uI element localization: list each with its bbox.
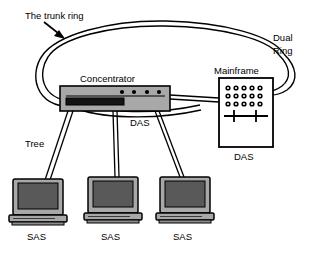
mainframe-device[interactable] [219,78,273,147]
das-mainframe-label: DAS [234,151,254,162]
das-concentrator-label: DAS [130,117,150,128]
concentrator-led-1 [120,90,124,94]
workstation-1-label: SAS [27,231,46,242]
workstation-1-screen [18,183,58,209]
concentrator-slot [66,98,124,105]
mainframe-label: Mainframe [214,65,259,76]
workstation-2[interactable] [84,177,142,223]
concentrator-led-4 [157,90,161,94]
tree-link-3-edge-b [159,111,184,177]
tree-link-1-edge-b [50,111,73,180]
tree-link-2-edge-b [117,111,119,177]
trunk-ring-label: The trunk ring [25,10,84,21]
tree-link-2-edge-a [113,111,115,177]
workstation-3-base [159,220,211,223]
concentrator-led-2 [132,90,136,94]
dual-ring-label-line1: Dual [273,32,293,43]
workstation-1-base [12,222,64,225]
dual-ring-label-line2: Ring [273,45,293,56]
concentrator-label: Concentrator [80,73,135,84]
das-link-edge-b [170,99,219,102]
tree-link-1-edge-a [45,111,68,180]
network-diagram: The trunk ring Dual Ring Concentrator Ma… [0,0,313,253]
tree-label: Tree [25,138,44,149]
concentrator-mainframe-link [170,95,219,102]
workstation-3-label: SAS [173,231,192,242]
tree-links-group [45,111,184,180]
diagram-canvas: The trunk ring Dual Ring Concentrator Ma… [0,0,313,253]
concentrator-device[interactable] [60,86,170,111]
workstation-3[interactable] [156,177,214,223]
das-link-edge-a [170,95,219,98]
workstation-3-screen [165,181,205,207]
trunk-ring-pointer-arrow [44,22,65,39]
workstation-1[interactable] [9,179,67,225]
workstation-2-screen [93,181,133,207]
workstation-2-base [87,220,139,223]
concentrator-led-3 [145,90,149,94]
workstation-2-label: SAS [101,231,120,242]
tree-link-3-edge-a [155,111,180,177]
